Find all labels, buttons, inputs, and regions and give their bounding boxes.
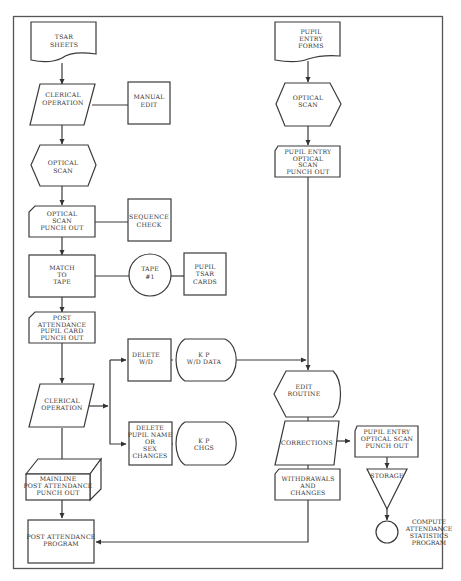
node-label: #1 <box>145 273 155 280</box>
node-label: WITHDRAWALS <box>281 475 334 482</box>
node-label: PROGRAM <box>412 539 447 546</box>
node-label: MANUAL <box>133 93 164 100</box>
node-compute-attendance-statistics: COMPUTE ATTENDANCE STATISTICS PROGRAM <box>376 518 453 546</box>
node-label: TAPE <box>141 265 159 272</box>
node-withdrawals-and-changes: WITHDRAWALS AND CHANGES <box>275 469 340 500</box>
node-label: CHANGES <box>290 489 325 496</box>
node-storage: STORAGE <box>367 469 407 509</box>
node-mainline-post-attendance: MAINLINE POST ATTENDANCE PUNCH OUT <box>23 459 101 500</box>
node-label: POST ATTENDANCE <box>23 482 92 489</box>
node-label: SEX <box>143 445 157 452</box>
node-label: PUPIL CARD <box>41 327 84 334</box>
node-label: EDIT <box>296 383 314 390</box>
node-label: PUNCH OUT <box>366 442 410 449</box>
node-edit-routine: EDIT ROUTINE <box>274 371 341 417</box>
node-kp-wd-data: K P W/D DATA <box>176 339 236 381</box>
node-post-attendance-program: POST ATTENDANCE PROGRAM <box>26 520 95 563</box>
node-delete-pupil-name: DELETE PUPIL NAME OR SEX CHANGES <box>128 422 173 465</box>
node-label: K P <box>198 351 209 358</box>
node-label: ROUTINE <box>288 390 321 397</box>
node-corrections: CORRECTIONS <box>275 421 339 465</box>
node-label: OPTICAL SCAN <box>361 435 414 442</box>
node-label: PUNCH OUT <box>287 168 331 175</box>
node-label: CHECK <box>136 221 161 228</box>
node-label: EDIT <box>141 101 159 108</box>
node-delete-wd: DELETE W/D <box>128 339 171 381</box>
node-label: PUPIL ENTRY <box>285 148 332 155</box>
node-label: CORRECTIONS <box>281 439 333 446</box>
node-label: TSAR <box>196 270 214 277</box>
node-label: CHANGES <box>132 452 167 459</box>
flowchart-canvas: TSAR SHEETS CLERICAL OPERATION MANUAL ED… <box>0 0 461 581</box>
node-label: FORMS <box>298 42 324 49</box>
node-match-to-tape: MATCH TO TAPE <box>29 255 95 297</box>
node-label: SCAN <box>53 167 73 174</box>
node-post-attendance-card: POST ATTENDANCE PUPIL CARD PUNCH OUT <box>29 312 95 343</box>
node-optical-scan-punch-out: OPTICAL SCAN PUNCH OUT <box>29 206 95 237</box>
node-label: PUNCH OUT <box>37 489 81 496</box>
node-label: PUNCH OUT <box>41 334 85 341</box>
node-clerical-operation-1: CLERICAL OPERATION <box>30 84 95 125</box>
node-optical-scan-1: OPTICAL SCAN <box>31 145 96 186</box>
node-label: CARDS <box>193 278 217 285</box>
node-label: COMPUTE <box>412 518 447 525</box>
node-label: TAPE <box>53 278 71 285</box>
node-label: STATISTICS <box>410 532 449 539</box>
node-label: SCAN <box>298 101 318 108</box>
node-clerical-operation-2: CLERICAL OPERATION <box>29 384 94 427</box>
node-label: DELETE <box>136 424 164 431</box>
node-label: PUPIL <box>195 263 216 270</box>
node-label: OR <box>145 438 155 445</box>
node-label: CLERICAL <box>44 397 79 404</box>
node-label: K P <box>198 437 209 444</box>
node-label: PUPIL NAME <box>128 431 173 438</box>
node-pupil-entry-forms: PUPIL ENTRY FORMS <box>275 22 340 62</box>
node-pupil-entry-punch-out-1: PUPIL ENTRY OPTICAL SCAN PUNCH OUT <box>275 146 340 177</box>
node-label: OPTICAL <box>293 94 324 101</box>
node-label: CHGS <box>194 444 214 451</box>
node-label: OPTICAL <box>48 159 79 166</box>
node-label: POST <box>53 314 72 321</box>
node-label: MATCH <box>49 264 75 271</box>
node-pupil-tsar-cards: PUPIL TSAR CARDS <box>184 253 226 295</box>
node-label: SCAN <box>52 217 72 224</box>
node-label: PROGRAM <box>43 540 79 547</box>
node-label: AND <box>299 482 315 489</box>
node-label: CLERICAL <box>45 91 80 98</box>
node-label: TSAR <box>55 33 73 40</box>
node-label: ATTENDANCE <box>405 525 453 532</box>
node-tsar-sheets: TSAR SHEETS <box>31 22 96 62</box>
node-label: SHEETS <box>50 41 78 48</box>
node-pupil-entry-punch-out-2: PUPIL ENTRY OPTICAL SCAN PUNCH OUT <box>355 426 418 457</box>
node-label: OPERATION <box>42 99 84 106</box>
node-label: PUPIL ENTRY <box>364 428 411 435</box>
node-label: DELETE <box>132 351 160 358</box>
node-tape-1: TAPE #1 <box>129 254 171 296</box>
node-optical-scan-2: OPTICAL SCAN <box>276 83 341 126</box>
node-label: OPTICAL <box>47 210 78 217</box>
node-label: W/D DATA <box>187 358 222 365</box>
node-label: SCAN <box>298 161 318 168</box>
node-label: ENTRY <box>299 35 323 42</box>
node-manual-edit: MANUAL EDIT <box>128 82 170 124</box>
node-label: TO <box>57 271 67 278</box>
node-label: STORAGE <box>370 472 404 479</box>
node-label: OPERATION <box>41 404 83 411</box>
node-label: PUNCH OUT <box>41 224 85 231</box>
node-label: PUPIL <box>301 28 322 35</box>
node-label: MAINLINE <box>40 475 77 482</box>
node-label: POST ATTENDANCE <box>26 533 95 540</box>
node-label: W/D <box>139 358 153 365</box>
node-sequence-check: SEQUENCE CHECK <box>128 199 171 241</box>
node-kp-chgs: K P CHGS <box>176 422 236 465</box>
node-label: SEQUENCE <box>129 213 169 220</box>
